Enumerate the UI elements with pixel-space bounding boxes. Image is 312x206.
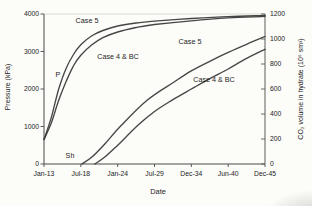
y-left-axis-title: Pressure (kPa) (4, 64, 12, 111)
annotation-case-4-bc: Case 4 & BC (97, 52, 139, 61)
series-co2-volume-case-4-bc (95, 49, 265, 164)
x-axis-title: Date (150, 188, 166, 196)
x-tick-label: Jun-40 (218, 170, 239, 177)
y-right-tick-label: 800 (270, 60, 282, 67)
annotation-case-5: Case 5 (179, 37, 202, 46)
annotation-case-4-bc: Case 4 & BC (193, 75, 235, 84)
y-right-tick-label: 200 (270, 135, 282, 142)
annotation-p: P (56, 70, 61, 79)
x-tick-label: Dec-45 (254, 170, 276, 177)
annotation-sh: Sh (66, 151, 75, 160)
y-right-tick-label: 1000 (270, 35, 285, 42)
y-left-tick-label: 1000 (24, 123, 39, 130)
y-right-tick-label: 600 (270, 85, 282, 92)
y-right-axis-title: CO₂ volume in hydrate (10⁶ sm³) (297, 38, 305, 139)
y-left-tick-label: 4000 (24, 10, 39, 17)
x-tick-label: Dec-34 (180, 170, 202, 177)
x-tick-label: Jan-24 (107, 170, 128, 177)
x-tick-label: Jan-13 (34, 170, 55, 177)
chart-canvas: 01000200030004000020040060080010001200Ja… (0, 0, 312, 206)
y-right-tick-label: 400 (270, 110, 282, 117)
annotation-case-5: Case 5 (76, 16, 99, 25)
pressure-co2-volume-figure: 01000200030004000020040060080010001200Ja… (0, 0, 312, 206)
y-right-tick-label: 1200 (270, 10, 285, 17)
y-right-tick-label: 0 (270, 160, 274, 167)
x-tick-label: Jul-18 (72, 170, 91, 177)
y-left-tick-label: 3000 (24, 48, 39, 55)
y-left-tick-label: 2000 (24, 85, 39, 92)
x-tick-label: Jul-29 (145, 170, 164, 177)
y-left-tick-label: 0 (35, 160, 39, 167)
